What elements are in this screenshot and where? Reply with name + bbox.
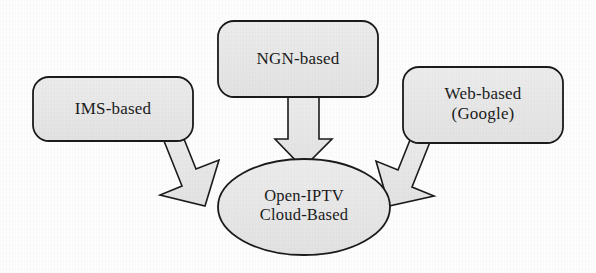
node-ngn-based[interactable] (218, 21, 378, 97)
node-web-based[interactable] (403, 67, 563, 143)
node-open-iptv-cloud[interactable] (218, 159, 390, 255)
arrow-ngn-to-cloud (275, 93, 332, 168)
node-ims-based[interactable] (33, 77, 193, 141)
diagram-canvas: IMS-based NGN-based Web-based (Google) O… (0, 0, 596, 273)
diagram-graphics (0, 0, 596, 273)
